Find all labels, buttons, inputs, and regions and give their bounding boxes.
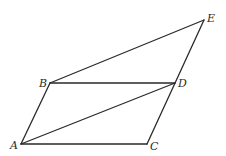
point-label-B: B	[38, 77, 47, 90]
point-label-D: D	[177, 77, 187, 90]
point-label-E: E	[206, 12, 215, 25]
geometry-diagram: A B C D E	[0, 0, 226, 156]
segments-group	[21, 20, 204, 144]
segment-BE	[50, 20, 204, 83]
point-label-A: A	[9, 139, 18, 152]
segment-CE	[147, 20, 204, 144]
point-label-C: C	[150, 140, 159, 153]
